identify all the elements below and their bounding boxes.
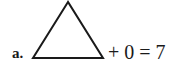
equation-text: + 0 = 7 [108,42,166,62]
